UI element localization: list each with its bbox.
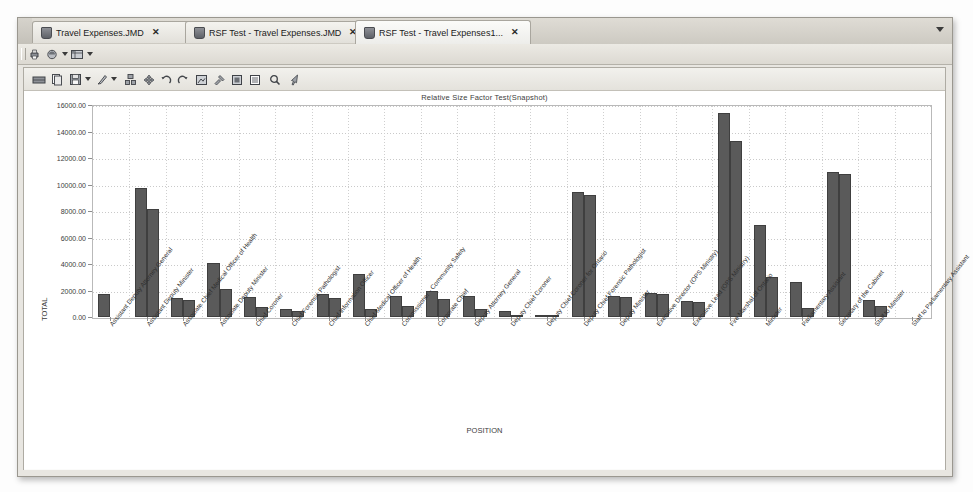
zoom-icon[interactable] [269, 72, 281, 86]
grid-line-vertical [348, 106, 349, 318]
chart-pane: Relative Size Factor Test(Snapshot) TOTA… [23, 67, 946, 471]
table-view-icon-svg [70, 48, 84, 61]
print-icon[interactable] [28, 47, 41, 61]
grid-line-vertical [384, 106, 385, 318]
copy-icon[interactable] [51, 72, 63, 86]
bar[interactable] [535, 315, 547, 317]
list-icon[interactable] [249, 72, 261, 86]
grid-line-vertical [858, 106, 859, 318]
copy-icon-svg [51, 73, 63, 86]
bar[interactable] [608, 296, 620, 317]
screenshot-root: Travel Expenses.JMD ✕ RSF Test - Travel … [0, 0, 973, 492]
grid-line-vertical [457, 106, 458, 318]
tab-rsf-test-travel-expenses1[interactable]: RSF Test - Travel Expenses1... ✕ [355, 20, 531, 44]
grid-line-vertical [494, 106, 495, 318]
redo-icon[interactable] [177, 72, 189, 86]
bar[interactable] [790, 282, 802, 317]
undo-icon-svg [160, 74, 172, 86]
tab-label: RSF Test - Travel Expenses.JMD [209, 28, 341, 38]
toolbar-grip[interactable] [21, 48, 26, 60]
brush-icon[interactable] [96, 72, 117, 86]
top-toolbar [18, 44, 952, 65]
bar[interactable] [572, 192, 584, 317]
save-icon-svg [69, 73, 82, 86]
grid-line-horizontal [93, 239, 931, 240]
bar[interactable] [730, 141, 742, 317]
bar[interactable] [681, 301, 693, 317]
move-icon[interactable] [143, 72, 155, 86]
image-icon-svg [231, 74, 243, 86]
tab-travel-expenses[interactable]: Travel Expenses.JMD ✕ [32, 21, 198, 43]
grid-line-vertical [895, 106, 896, 318]
tab-strip: Travel Expenses.JMD ✕ RSF Test - Travel … [18, 18, 952, 45]
bar[interactable] [499, 311, 511, 317]
data-grid-icon[interactable] [32, 72, 46, 86]
tab-label: Travel Expenses.JMD [56, 28, 144, 38]
grid-line-horizontal [93, 186, 931, 187]
tab-strip-left-edge [18, 18, 32, 44]
chevron-down-icon[interactable] [85, 77, 91, 81]
grid-line-vertical [166, 106, 167, 318]
grid-line-vertical [822, 106, 823, 318]
grid-line-vertical [676, 106, 677, 318]
zoom-icon-svg [269, 74, 281, 86]
crop-icon[interactable] [195, 72, 208, 86]
grid-line-vertical [239, 106, 240, 318]
grid-line-horizontal [93, 133, 931, 134]
tab-rsf-test-travel-expenses[interactable]: RSF Test - Travel Expenses.JMD ✕ [185, 21, 368, 43]
bar[interactable] [754, 225, 766, 317]
application-window: Travel Expenses.JMD ✕ RSF Test - Travel … [17, 17, 953, 477]
grid-line-vertical [785, 106, 786, 318]
table-view-icon[interactable] [70, 47, 93, 61]
chevron-down-icon[interactable] [111, 77, 117, 81]
print-icon-svg [28, 48, 41, 61]
y-axis-tick-label: 0.00 [24, 314, 86, 321]
image-icon[interactable] [231, 72, 243, 86]
layout-icon-svg [124, 73, 137, 86]
bar[interactable] [839, 174, 851, 317]
close-icon[interactable]: ✕ [152, 28, 160, 37]
export-icon[interactable] [46, 47, 68, 61]
x-axis-label: POSITION [24, 426, 945, 435]
tab-label: RSF Test - Travel Expenses1... [379, 28, 503, 38]
grid-line-horizontal [93, 212, 931, 213]
y-axis-tick-label: 10000.00 [24, 181, 86, 188]
grid-line-vertical [129, 106, 130, 318]
bar[interactable] [863, 300, 875, 317]
list-icon-svg [249, 74, 261, 86]
grid-line-vertical [421, 106, 422, 318]
settings-icon[interactable] [213, 72, 226, 86]
document-icon [194, 27, 205, 39]
layout-icon[interactable] [124, 72, 137, 86]
bar[interactable] [98, 294, 110, 317]
export-icon-svg [46, 48, 59, 61]
chevron-down-icon[interactable] [936, 27, 944, 32]
chevron-down-icon[interactable] [87, 52, 93, 56]
y-axis-tick-label: 6000.00 [24, 234, 86, 241]
pointer-icon[interactable] [288, 72, 300, 86]
y-axis-tick-label: 8000.00 [24, 208, 86, 215]
pointer-icon-svg [288, 73, 300, 86]
grid-line-vertical [312, 106, 313, 318]
bar[interactable] [584, 195, 596, 317]
chart-toolbar [24, 68, 945, 91]
save-icon[interactable] [69, 72, 91, 86]
grid-line-vertical [202, 106, 203, 318]
settings-icon-svg [213, 74, 226, 86]
bar[interactable] [280, 309, 292, 317]
crop-icon-svg [195, 74, 208, 86]
document-icon [364, 27, 375, 39]
grid-line-horizontal [93, 159, 931, 160]
bar[interactable] [171, 298, 183, 317]
bar[interactable] [463, 296, 475, 317]
y-axis-tick-label: 12000.00 [24, 155, 86, 162]
chevron-down-icon[interactable] [62, 52, 68, 56]
move-icon-svg [143, 74, 155, 86]
y-axis-tick-label: 2000.00 [24, 287, 86, 294]
y-axis-tick-label: 16000.00 [24, 102, 86, 109]
bar[interactable] [390, 296, 402, 317]
close-icon[interactable]: ✕ [511, 28, 519, 37]
bar[interactable] [244, 297, 256, 317]
undo-icon[interactable] [160, 72, 172, 86]
y-axis-tick-label: 4000.00 [24, 261, 86, 268]
